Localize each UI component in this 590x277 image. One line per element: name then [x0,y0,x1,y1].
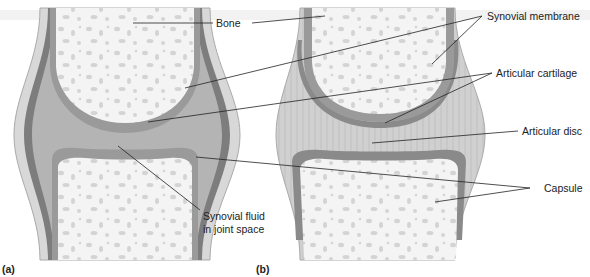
label-articular-disc: Articular disc [522,125,582,137]
panel-b-joint [276,8,485,260]
label-synovial-fluid-line2: in joint space [203,223,264,235]
label-synovial-fluid-line1: Synovial fluid [203,210,265,222]
label-articular-cartilage: Articular cartilage [496,67,577,79]
label-synovial-membrane: Synovial membrane [487,10,580,22]
upper-bone-b [312,8,446,114]
upper-bone-a [56,8,194,123]
panel-label-a: (a) [2,263,15,275]
articular-disc-b [292,128,468,150]
joint-diagram [0,0,590,277]
panel-label-b: (b) [256,263,269,275]
lower-bone-a [58,158,192,260]
label-capsule: Capsule [544,182,583,194]
label-bone: Bone [216,17,241,29]
